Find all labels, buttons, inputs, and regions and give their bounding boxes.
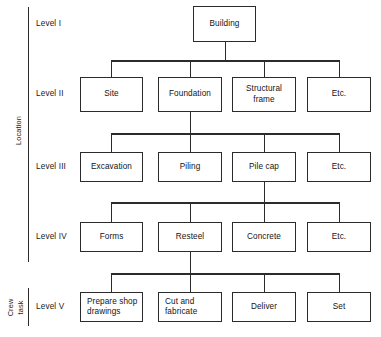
connector-riser-etc-3 (339, 133, 341, 152)
connector-riser-resteel (190, 202, 192, 222)
connector-riser-excavation (111, 133, 113, 152)
node-prepare-shop-drawings[interactable]: Prepare shop drawings (80, 292, 143, 322)
level-caption-2: Level II (36, 89, 64, 98)
node-deliver-label: Deliver (248, 302, 280, 313)
node-forms[interactable]: Forms (80, 222, 143, 252)
connector-riser-etc-2 (339, 60, 341, 77)
node-forms-label: Forms (97, 232, 127, 243)
group-label-location: Location (14, 101, 23, 161)
connector-resteel-drop (190, 252, 192, 274)
level-caption-5: Level V (36, 302, 64, 311)
node-structural-frame-label: Structural frame (243, 84, 285, 105)
node-building-label: Building (207, 19, 243, 30)
node-piling-label: Piling (177, 162, 204, 173)
node-piling[interactable]: Piling (158, 152, 222, 182)
group-label-crew-task-line2: task (16, 286, 25, 330)
connector-riser-piling (190, 133, 192, 152)
node-set[interactable]: Set (307, 292, 371, 322)
connector-pile-cap-drop (264, 182, 266, 203)
node-deliver[interactable]: Deliver (232, 292, 296, 322)
wbs-diagram: Location Crew task Level I Level II Leve… (0, 0, 381, 337)
node-etc-level-4-label: Etc. (329, 232, 350, 243)
node-site[interactable]: Site (80, 77, 143, 112)
connector-riser-structural-frame (264, 60, 266, 77)
node-prepare-shop-drawings-label: Prepare shop drawings (81, 297, 142, 318)
node-concrete[interactable]: Concrete (232, 222, 296, 252)
connector-bus-level-2 (111, 60, 340, 62)
node-cut-and-fabricate[interactable]: Cut and fabricate (158, 292, 222, 322)
node-resteel[interactable]: Resteel (158, 222, 222, 252)
level-caption-3: Level III (36, 162, 66, 171)
node-excavation[interactable]: Excavation (80, 152, 143, 182)
node-concrete-label: Concrete (244, 232, 284, 243)
node-pile-cap[interactable]: Pile cap (232, 152, 296, 182)
node-etc-level-3[interactable]: Etc. (307, 152, 371, 182)
connector-riser-concrete (264, 202, 266, 222)
connector-building-drop (225, 42, 227, 61)
connector-bus-level-3 (111, 133, 340, 135)
node-pile-cap-label: Pile cap (246, 162, 282, 173)
node-foundation[interactable]: Foundation (158, 77, 222, 112)
group-rule-location (28, 7, 29, 262)
node-cut-and-fabricate-label: Cut and fabricate (159, 297, 221, 318)
connector-riser-set (339, 273, 341, 292)
connector-riser-foundation (190, 60, 192, 77)
node-etc-level-2[interactable]: Etc. (307, 77, 371, 112)
connector-riser-prepare-shop-drawings (111, 273, 113, 292)
group-label-crew-task-line1: Crew (6, 286, 15, 330)
node-set-label: Set (330, 302, 349, 313)
connector-riser-site (111, 60, 113, 77)
connector-riser-cut-and-fabricate (190, 273, 192, 292)
node-resteel-label: Resteel (173, 232, 207, 243)
connector-bus-level-4 (111, 202, 340, 204)
node-site-label: Site (101, 89, 122, 100)
level-caption-1: Level I (36, 19, 61, 28)
connector-riser-pile-cap (264, 133, 266, 152)
level-caption-4: Level IV (36, 232, 67, 241)
node-structural-frame[interactable]: Structural frame (232, 77, 296, 112)
group-rule-crew-task (28, 288, 29, 326)
connector-riser-etc-4 (339, 202, 341, 222)
node-foundation-label: Foundation (166, 89, 214, 100)
node-etc-level-3-label: Etc. (329, 162, 350, 173)
node-etc-level-2-label: Etc. (329, 89, 350, 100)
node-building[interactable]: Building (193, 6, 256, 42)
node-etc-level-4[interactable]: Etc. (307, 222, 371, 252)
node-excavation-label: Excavation (88, 162, 135, 173)
connector-riser-forms (111, 202, 113, 222)
connector-riser-deliver (264, 273, 266, 292)
connector-foundation-drop (190, 112, 192, 134)
connector-bus-level-5 (111, 273, 340, 275)
